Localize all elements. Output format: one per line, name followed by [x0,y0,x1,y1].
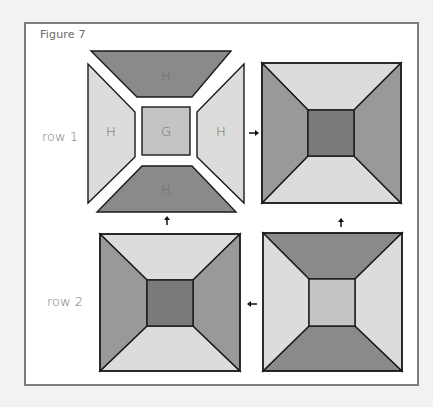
arrow-up-icon [164,216,170,225]
assembled-block-4 [263,233,402,371]
arrow-up-icon [338,218,344,227]
arrow-right-icon [249,130,259,136]
label-center: G [161,124,171,139]
quilt-diagram: H H G H H [0,0,433,407]
label-right: H [216,124,226,139]
label-left: H [106,124,116,139]
assembled-block-1 [262,63,401,203]
arrow-left-icon [247,301,257,307]
assembled-block-2 [100,234,240,371]
label-bottom: H [161,182,171,197]
label-top: H [161,68,171,83]
